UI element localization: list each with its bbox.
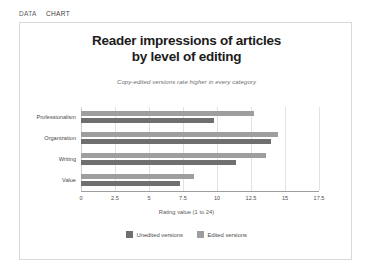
- plot-area: ProfessionalismOrganizationWritingValue: [81, 107, 319, 191]
- bar: [81, 181, 180, 186]
- bar: [81, 153, 266, 158]
- bar-group: Value: [81, 170, 319, 191]
- legend-item[interactable]: Unedited versions: [126, 231, 183, 238]
- chart-title-line-2: by level of editing: [20, 49, 353, 65]
- legend-item[interactable]: Edited versions: [197, 231, 247, 238]
- x-tick-label: 5: [147, 195, 150, 201]
- bar: [81, 160, 236, 165]
- x-axis-title: Rating value (1 to 24): [20, 209, 353, 215]
- bar: [81, 139, 271, 144]
- x-axis-line: [81, 191, 319, 192]
- x-tick-label: 7.5: [179, 195, 187, 201]
- x-tick-label: 0: [79, 195, 82, 201]
- x-tick-label: 10: [214, 195, 220, 201]
- legend-swatch: [197, 231, 204, 238]
- x-tick-label: 2.5: [111, 195, 119, 201]
- category-label: Value: [62, 177, 76, 183]
- bar-group: Professionalism: [81, 107, 319, 128]
- x-tick-label: 15: [282, 195, 288, 201]
- chart-title: Reader impressions of articles by level …: [20, 33, 353, 65]
- chart-legend: Unedited versionsEdited versions: [20, 231, 353, 238]
- category-label: Writing: [59, 156, 76, 162]
- legend-label: Unedited versions: [136, 232, 182, 238]
- legend-swatch: [126, 231, 133, 238]
- bar: [81, 132, 278, 137]
- bar: [81, 174, 194, 179]
- category-label: Professionalism: [37, 114, 76, 120]
- x-gridline: [319, 107, 320, 191]
- category-label: Organization: [44, 135, 76, 141]
- bar: [81, 118, 214, 123]
- x-tick-label: 17.5: [314, 195, 325, 201]
- legend-label: Edited versions: [207, 232, 247, 238]
- tab-chart[interactable]: CHART: [46, 10, 70, 17]
- tab-data[interactable]: DATA: [19, 10, 37, 17]
- chart-app: DATA CHART Reader impressions of article…: [0, 0, 365, 273]
- chart-title-line-1: Reader impressions of articles: [20, 33, 353, 49]
- bar: [81, 111, 254, 116]
- x-tick-label: 12.5: [246, 195, 257, 201]
- bar-group: Organization: [81, 128, 319, 149]
- chart-subtitle: Copy-edited versions rate higher in ever…: [20, 79, 353, 85]
- bar-group: Writing: [81, 149, 319, 170]
- chart-card: Reader impressions of articles by level …: [19, 22, 352, 260]
